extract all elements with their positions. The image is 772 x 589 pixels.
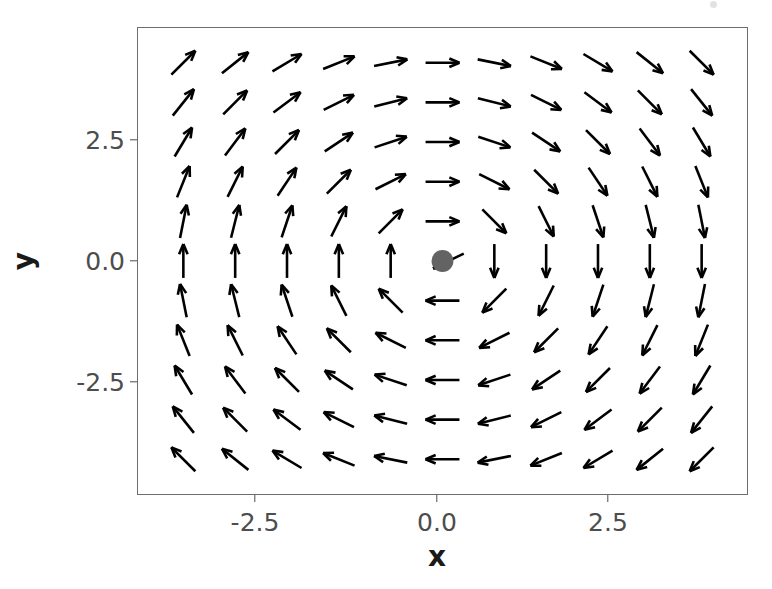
x-tick-mark-2.5: [607, 495, 608, 502]
x-tick-label--2.5: -2.5: [231, 510, 280, 535]
x-tick-label-0.0: 0.0: [417, 510, 457, 535]
y-tick-label--2.5: -2.5: [40, 370, 125, 395]
equilibrium-point-marker: [432, 250, 454, 272]
y-tick-label-0.0: 0.0: [40, 249, 125, 274]
x-axis-label: x: [428, 543, 446, 571]
y-tick-mark--2.5: [130, 381, 137, 382]
y-tick-label-2.5: 2.5: [40, 128, 125, 153]
x-tick-mark-0.0: [436, 495, 437, 502]
vector-field-canvas: [138, 28, 747, 494]
vector-field-figure: y 2.5 0.0 -2.5 -2.5 0.0 2.5 x: [0, 0, 772, 589]
plot-panel: [137, 27, 748, 495]
y-axis-label: y: [10, 252, 38, 270]
x-tick-mark--2.5: [254, 495, 255, 502]
y-tick-mark-2.5: [130, 139, 137, 140]
y-tick-mark-0.0: [130, 260, 137, 261]
scan-artifact-icon: [710, 1, 717, 8]
x-tick-label-2.5: 2.5: [588, 510, 628, 535]
